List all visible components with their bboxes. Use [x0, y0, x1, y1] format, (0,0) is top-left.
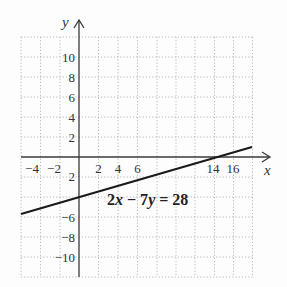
- axes: [21, 20, 270, 277]
- svg-text:−2: −2: [47, 161, 61, 176]
- graph-figure: y x 10 8 6 4 2 2 −6 −8 −10 −4 −2 2 4 6 1…: [0, 0, 287, 287]
- svg-text:2: 2: [69, 169, 76, 184]
- svg-text:6: 6: [134, 161, 141, 176]
- svg-text:14: 14: [207, 161, 221, 176]
- coordinate-plane: y x 10 8 6 4 2 2 −6 −8 −10 −4 −2 2 4 6 1…: [0, 0, 287, 287]
- svg-text:−8: −8: [61, 230, 75, 245]
- svg-text:−10: −10: [55, 250, 75, 265]
- svg-text:−4: −4: [25, 161, 39, 176]
- equation-label: 2x − 7y = 28: [107, 191, 188, 209]
- svg-text:−6: −6: [61, 210, 75, 225]
- x-axis-label: x: [263, 162, 271, 178]
- x-tick-labels: −4 −2 2 4 6 14 16: [25, 161, 240, 176]
- svg-text:2: 2: [69, 130, 76, 145]
- y-axis-label: y: [60, 14, 69, 30]
- svg-text:4: 4: [69, 110, 76, 125]
- svg-text:2: 2: [95, 161, 102, 176]
- svg-text:6: 6: [69, 90, 76, 105]
- svg-text:10: 10: [62, 50, 75, 65]
- svg-text:8: 8: [69, 70, 76, 85]
- svg-text:4: 4: [115, 161, 122, 176]
- svg-text:16: 16: [227, 161, 241, 176]
